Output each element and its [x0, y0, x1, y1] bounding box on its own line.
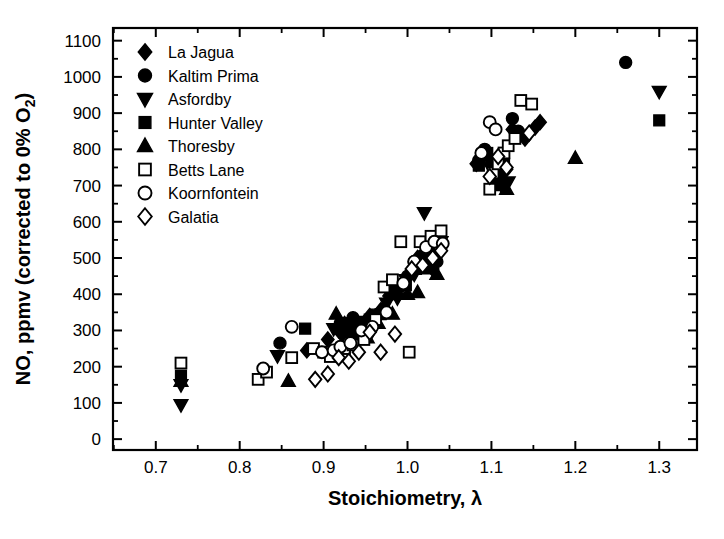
- data-point: [526, 99, 537, 110]
- x-tick-label: 0.9: [312, 458, 336, 477]
- legend-label: Thoresby: [168, 138, 235, 155]
- data-point: [397, 277, 409, 289]
- data-point: [271, 351, 285, 363]
- x-tick-label: 1.0: [396, 458, 420, 477]
- data-point: [510, 133, 521, 144]
- data-point: [329, 307, 343, 319]
- series-koornfontein: [257, 116, 501, 374]
- legend-item: Thoresby: [137, 138, 234, 155]
- y-tick-label: 0: [92, 430, 101, 449]
- data-point: [374, 345, 386, 360]
- data-point: [387, 274, 398, 285]
- legend-item: Hunter Valley: [139, 115, 263, 132]
- data-point: [506, 113, 518, 125]
- legend-item: Asfordby: [137, 91, 231, 108]
- plot-canvas: 0.70.80.91.01.11.21.3 010020030040050060…: [0, 0, 724, 539]
- y-tick-label: 100: [73, 394, 101, 413]
- data-point: [286, 321, 298, 333]
- data-point: [515, 95, 526, 106]
- data-points: [174, 56, 666, 412]
- data-point: [316, 346, 328, 358]
- y-tick-label: 500: [73, 249, 101, 268]
- legend-marker-square-filled: [139, 117, 151, 129]
- y-tick-label: 900: [73, 104, 101, 123]
- y-tick-label: 700: [73, 177, 101, 196]
- legend-label: Kaltim Prima: [168, 68, 259, 85]
- data-point: [620, 56, 632, 68]
- x-axis-tick-labels: 0.70.80.91.01.11.21.3: [144, 458, 671, 477]
- legend-label: Galatia: [168, 209, 219, 226]
- data-point: [652, 86, 666, 98]
- data-point: [309, 372, 321, 387]
- legend-label: Hunter Valley: [168, 115, 263, 132]
- legend-label: Betts Lane: [168, 162, 245, 179]
- x-tick-label: 0.7: [144, 458, 168, 477]
- data-point: [286, 352, 297, 363]
- data-point: [274, 337, 286, 349]
- data-point: [417, 208, 431, 220]
- legend-marker-triangle-up-filled: [137, 138, 152, 151]
- data-point: [344, 337, 356, 349]
- data-point: [281, 374, 295, 386]
- y-tick-label: 400: [73, 285, 101, 304]
- y-tick-label: 1100: [64, 32, 101, 51]
- legend-marker-square-open: [139, 164, 151, 176]
- x-tick-label: 1.2: [564, 458, 588, 477]
- data-point: [257, 363, 269, 375]
- data-point: [176, 358, 187, 369]
- legend-marker-diamond-filled: [138, 44, 152, 61]
- data-point: [436, 225, 447, 236]
- data-point: [411, 285, 425, 297]
- data-point: [475, 147, 487, 159]
- data-point: [395, 236, 406, 247]
- data-point: [381, 306, 393, 318]
- legend-marker-diamond-open: [138, 208, 152, 225]
- legend-item: Galatia: [138, 208, 219, 225]
- data-point: [404, 347, 415, 358]
- x-axis-title-text: Stoichiometry, λ: [328, 487, 482, 509]
- legend-label: Koornfontein: [168, 185, 259, 202]
- y-axis-tick-labels: 010020030040050060070080090010001100: [63, 32, 101, 449]
- y-tick-label: 200: [73, 358, 101, 377]
- legend-label: La Jagua: [168, 44, 234, 61]
- y-axis-title: NO, ppmv (corrected to 0% O2): [12, 93, 38, 385]
- data-point: [390, 289, 401, 300]
- legend-item: La Jagua: [138, 44, 234, 61]
- data-point: [300, 323, 311, 334]
- legend-label: Asfordby: [168, 91, 231, 108]
- legend-item: Koornfontein: [139, 185, 259, 202]
- data-point: [473, 160, 484, 171]
- scatter-plot-figure: 0.70.80.91.01.11.21.3 010020030040050060…: [0, 0, 724, 539]
- x-tick-label: 1.1: [480, 458, 504, 477]
- y-tick-label: 600: [73, 213, 101, 232]
- x-tick-label: 1.3: [647, 458, 671, 477]
- legend-item: Betts Lane: [139, 162, 244, 179]
- data-point: [389, 326, 401, 341]
- data-point: [490, 123, 502, 135]
- data-point: [322, 366, 334, 381]
- y-tick-label: 1000: [63, 68, 101, 87]
- x-axis-title: Stoichiometry, λ: [328, 487, 482, 509]
- data-point: [174, 400, 188, 412]
- data-point: [568, 151, 582, 163]
- legend-marker-triangle-down-filled: [137, 94, 152, 107]
- x-tick-label: 0.8: [228, 458, 252, 477]
- legend-marker-circle-open: [139, 187, 152, 200]
- data-point: [654, 115, 665, 126]
- y-axis-title-text: NO, ppmv (corrected to 0% O2): [12, 93, 38, 385]
- y-tick-label: 300: [73, 321, 101, 340]
- legend: La JaguaKaltim PrimaAsfordbyHunter Valle…: [137, 44, 262, 226]
- legend-marker-circle-filled: [139, 69, 152, 82]
- series-kaltim-prima: [274, 56, 632, 349]
- y-tick-label: 800: [73, 140, 101, 159]
- legend-item: Kaltim Prima: [139, 68, 259, 85]
